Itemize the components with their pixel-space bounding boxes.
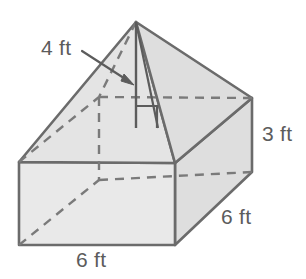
- dimension-label-pyramid-height: 4 ft: [41, 36, 71, 60]
- dimension-label-prism-width: 6 ft: [76, 248, 106, 272]
- geometry-figure: 4 ft 3 ft 6 ft 6 ft: [0, 0, 306, 279]
- prism-front-face: [19, 162, 175, 245]
- dimension-label-prism-height: 3 ft: [262, 122, 292, 146]
- dimension-label-prism-depth: 6 ft: [221, 205, 251, 229]
